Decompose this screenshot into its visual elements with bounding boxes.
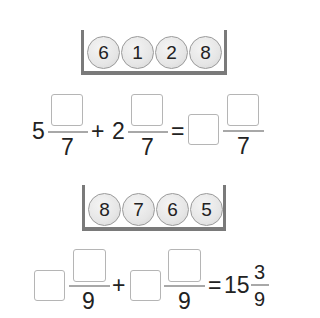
denominator: 9: [82, 290, 95, 313]
number-ball[interactable]: 7: [122, 193, 155, 226]
number-ball[interactable]: 6: [87, 36, 120, 69]
whole-number: 15: [224, 274, 250, 297]
plus-sign: +: [112, 274, 125, 297]
whole-number: 5: [32, 120, 45, 143]
plus-sign: +: [91, 120, 104, 143]
tray-bottom: [81, 71, 227, 75]
number-ball[interactable]: 8: [189, 36, 222, 69]
whole-input-box[interactable]: [188, 114, 219, 145]
fraction-bar: [164, 285, 205, 287]
number-ball[interactable]: 6: [156, 193, 189, 226]
tray-left-wall: [82, 185, 85, 231]
fraction-bar: [223, 130, 264, 132]
number-ball[interactable]: 5: [190, 193, 223, 226]
tray-bottom: [82, 227, 226, 231]
whole-input-box[interactable]: [34, 270, 65, 301]
tray-right-wall: [223, 185, 226, 231]
numerator-input-box[interactable]: [168, 249, 201, 282]
tray-left-wall: [81, 30, 84, 75]
fraction-bar: [128, 131, 168, 133]
fraction-bar: [48, 131, 88, 133]
whole-input-box[interactable]: [130, 270, 161, 301]
number-ball[interactable]: 2: [155, 36, 188, 69]
denominator: 7: [237, 135, 250, 158]
fraction-bar: [69, 285, 110, 287]
numerator-input-box[interactable]: [73, 249, 106, 282]
whole-number: 2: [112, 120, 125, 143]
equals-sign: =: [171, 120, 184, 143]
denominator: 7: [61, 136, 74, 159]
numerator-input-box[interactable]: [227, 94, 259, 126]
fraction-bar: [251, 284, 269, 286]
equals-sign: =: [208, 274, 221, 297]
tray-right-wall: [224, 30, 227, 75]
denominator: 7: [141, 136, 154, 159]
number-ball[interactable]: 1: [121, 36, 154, 69]
numerator-input-box[interactable]: [51, 94, 83, 126]
number-ball[interactable]: 8: [88, 193, 121, 226]
denominator: 9: [178, 290, 191, 313]
denominator: 9: [254, 289, 265, 309]
numerator-input-box[interactable]: [131, 94, 163, 126]
numerator: 3: [254, 262, 265, 282]
